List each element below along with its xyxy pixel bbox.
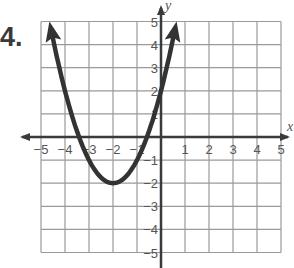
x-axis-arrow-left-icon — [20, 133, 30, 141]
parabola-graph: yx −5−4−3−2−11234554321−1−2−3−4−5 — [0, 0, 294, 268]
x-axis-arrow-right-icon — [280, 133, 290, 141]
y-tick-label: −2 — [143, 176, 158, 191]
x-tick-label: 5 — [277, 142, 284, 157]
x-tick-label: 4 — [253, 142, 260, 157]
y-tick-label: −3 — [143, 199, 158, 214]
y-tick-label: −1 — [143, 153, 158, 168]
y-axis-label: y — [163, 0, 172, 13]
y-tick-label: 4 — [151, 38, 158, 53]
y-tick-label: −5 — [143, 246, 158, 261]
x-axis-label: x — [286, 119, 294, 134]
y-tick-label: 5 — [151, 15, 158, 30]
x-tick-label: −2 — [106, 142, 121, 157]
y-axis-arrow-up-icon — [157, 5, 165, 15]
x-tick-label: −4 — [58, 142, 73, 157]
x-tick-label: 2 — [205, 142, 212, 157]
x-tick-label: 1 — [181, 142, 188, 157]
x-tick-label: −5 — [34, 142, 49, 157]
y-tick-label: −4 — [143, 222, 158, 237]
x-tick-label: 3 — [229, 142, 236, 157]
y-tick-label: 2 — [151, 84, 158, 99]
y-tick-label: 3 — [151, 61, 158, 76]
